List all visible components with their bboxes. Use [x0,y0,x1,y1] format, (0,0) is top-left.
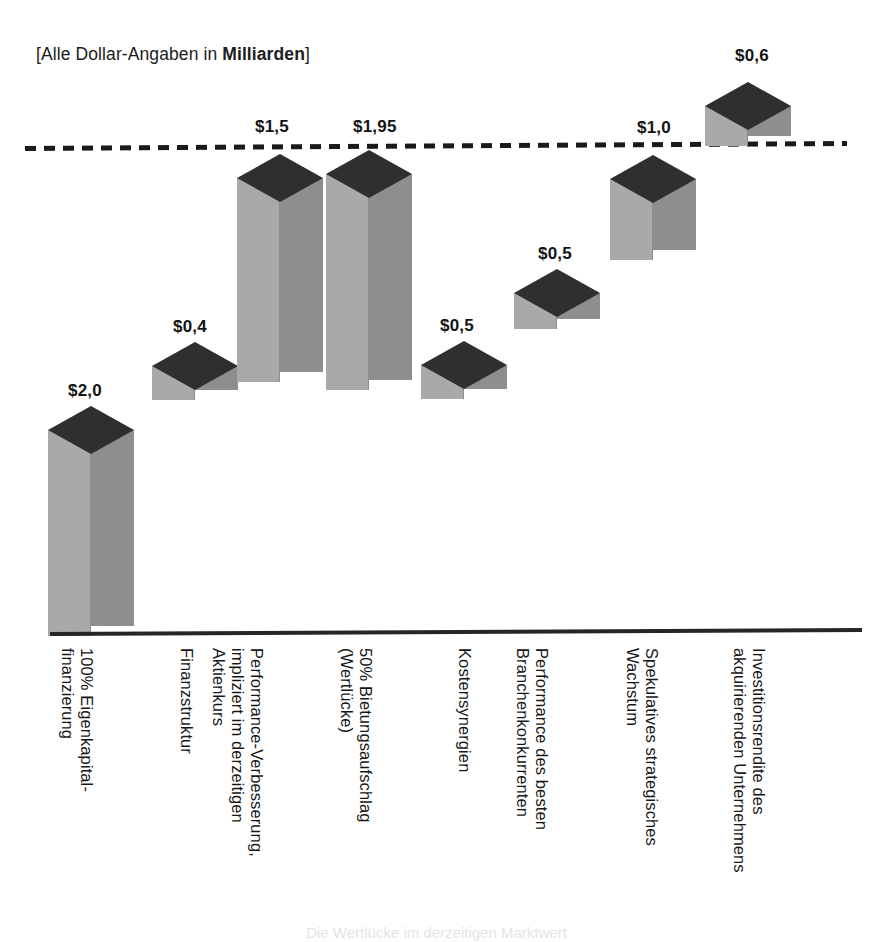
bar-6-top-face [514,269,600,317]
category-label-3: Performance-Verbesserung, impliziert im … [209,648,266,857]
category-label-8: Investitionsrendite des akquirierenden U… [730,648,768,873]
bar-4-left-face [326,174,369,390]
category-label-6-line-2: Branchenkonkurrenten [513,648,532,830]
bar-1-right-face [91,430,134,626]
bar-5-top-face [421,341,507,389]
category-label-1-line-2: finanzierung [58,648,77,792]
category-label-6: Performance des besten Branchenkonkurren… [513,648,551,830]
page-bleed-text: Die Wertlücke im derzeitigen Marktwert [0,924,873,942]
plot-area: $2,0 $0,4 $1,5 $1,95 [0,0,873,660]
category-label-3-line-2: impliziert im derzeitigen [228,648,247,857]
category-label-4-line-1: 50% Bietungsaufschlag [356,648,375,823]
bar-1-top-face [48,406,134,454]
category-label-6-line-1: Performance des besten [532,648,551,830]
bar-investitionsrendite [705,82,791,146]
value-label-bar-4: $1,95 [353,117,397,137]
bar-1-left-face [48,430,91,636]
category-label-4: 50% Bietungsaufschlag (Wertlücke) [337,648,375,823]
value-label-bar-8: $0,6 [735,46,769,66]
category-label-7-line-1: Spekulatives strategisches [642,648,661,846]
category-label-2-line-1: Finanzstruktur [177,648,196,754]
category-label-3-line-3: Aktienkurs [209,648,228,857]
value-label-bar-1: $2,0 [68,381,102,401]
category-label-2: Finanzstruktur [177,648,196,754]
bar-2-top-face [152,342,238,390]
bar-eigenkapitalfinanzierung [48,406,134,636]
category-label-5: Kostensynergien [455,648,474,772]
bar-bietungsaufschlag [326,150,412,390]
category-label-7: Spekulatives strategisches Wachstum [623,648,661,846]
bar-3-top-face [237,154,323,202]
category-axis [50,628,862,636]
bar-spekulatives-wachstum [610,155,696,260]
category-label-7-line-2: Wachstum [623,648,642,846]
bar-4-top-face [326,150,412,198]
bar-performance-verbesserung [237,154,323,382]
value-label-bar-3: $1,5 [255,117,289,137]
value-label-bar-2: $0,4 [173,317,207,337]
value-label-bar-6: $0,5 [538,244,572,264]
bar-3-right-face [280,178,323,372]
bar-kostensynergien [421,341,507,399]
category-label-1: 100% Eigenkapital- finanzierung [58,648,96,792]
category-label-8-line-1: Investitionsrendite des [749,648,768,873]
bar-performance-branchenkonkurrenten [514,269,600,329]
bar-finanzstruktur [152,342,238,400]
category-label-1-line-1: 100% Eigenkapital- [77,648,96,792]
chart-page: [Alle Dollar-Angaben in Milliarden] $2,0… [0,0,873,942]
value-label-bar-7: $1,0 [637,118,671,138]
category-label-5-line-1: Kostensynergien [455,648,474,772]
bar-8-top-face [705,82,791,130]
category-label-3-line-1: Performance-Verbesserung, [247,648,266,857]
bar-4-right-face [369,174,412,380]
category-label-4-line-2: (Wertlücke) [337,648,356,823]
category-label-8-line-2: akquirierenden Unternehmens [730,648,749,873]
bar-7-top-face [610,155,696,203]
value-label-bar-5: $0,5 [440,316,474,336]
bar-3-left-face [237,178,280,382]
